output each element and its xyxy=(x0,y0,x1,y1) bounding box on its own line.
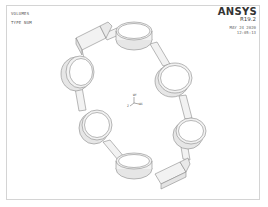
box-connector-top-left xyxy=(76,22,112,58)
triad-y-label: WY xyxy=(133,93,137,97)
coordinate-triad-icon xyxy=(130,97,139,106)
ring-volume-bottom xyxy=(116,153,152,179)
box-connector-bottom-right xyxy=(155,158,190,189)
ring-volume-lower-left xyxy=(79,110,112,144)
ring-volume-lower-right xyxy=(173,118,206,149)
ring-volume-upper-right xyxy=(155,63,192,97)
ring-volume-upper-left xyxy=(61,56,94,91)
triad-x-label: WX xyxy=(139,102,143,106)
ring-chain-model[interactable]: WY WX Z xyxy=(0,0,268,207)
triad-z-label: Z xyxy=(127,104,129,108)
ring-volume-top xyxy=(116,22,152,50)
